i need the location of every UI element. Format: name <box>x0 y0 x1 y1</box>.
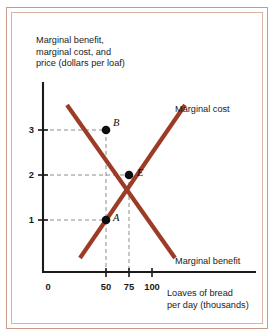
x-axis-title-line-1: Loaves of bread <box>167 288 249 300</box>
point-label-b: B <box>113 117 119 128</box>
y-axis-title-line-3: price (dollars per loaf) <box>36 58 125 70</box>
marginal-benefit-curve <box>67 105 175 258</box>
figure-root: Marginal benefit, marginal cost, and pri… <box>0 0 275 336</box>
data-point-e <box>125 171 134 180</box>
x-tick-label-0: 0 <box>38 281 58 292</box>
series-label-marginal-cost: Marginal cost <box>175 104 230 114</box>
data-point-a <box>102 216 111 225</box>
y-axis-title-line-2: marginal cost, and <box>36 47 125 59</box>
x-tick-label-50: 50 <box>96 281 116 292</box>
x-tick-label-100: 100 <box>142 281 162 292</box>
y-tick-label-1: 1 <box>24 214 34 225</box>
y-tick-label-2: 2 <box>24 169 34 180</box>
x-axis-title: Loaves of bread per day (thousands) <box>167 288 249 311</box>
y-axis-title: Marginal benefit, marginal cost, and pri… <box>36 35 125 70</box>
marginal-cost-curve <box>80 105 185 258</box>
y-axis-title-line-1: Marginal benefit, <box>36 35 125 47</box>
series-label-marginal-benefit: Marginal benefit <box>175 256 240 266</box>
chart-plot-area: Marginal benefit, marginal cost, and pri… <box>12 13 262 323</box>
point-label-a: A <box>113 212 119 223</box>
point-label-e: E <box>137 167 143 178</box>
data-point-b <box>102 126 111 135</box>
x-axis-title-line-2: per day (thousands) <box>167 300 249 312</box>
curves <box>67 105 185 258</box>
x-tick-label-75: 75 <box>119 281 139 292</box>
y-tick-label-3: 3 <box>24 124 34 135</box>
